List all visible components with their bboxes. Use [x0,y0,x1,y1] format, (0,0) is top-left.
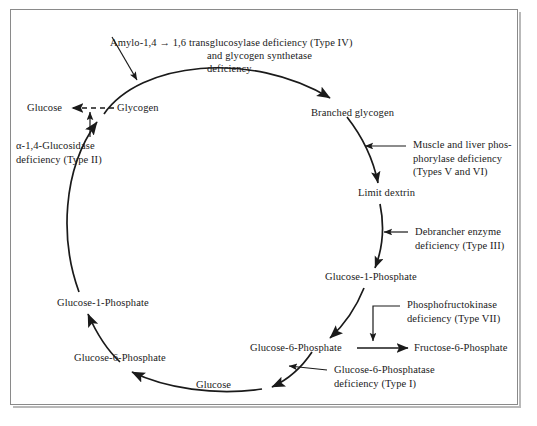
label-glucose-1-phosphate-right: Glucose-1-Phosphate [325,270,417,284]
glycogen-metabolism-figure: Amylo-1,4 → 1,6 transglucosylase deficie… [0,0,537,426]
label-glycogen: Glycogen [117,101,159,115]
label-limit-dextrin: Limit dextrin [358,186,415,200]
label-fructose-6-phosphate: Fructose-6-Phosphate [414,341,508,355]
label-type-vii-deficiency: Phosphofructokinase deficiency (Type VII… [407,298,532,325]
label-type-ii-deficiency: α-1,4-Glucosidase deficiency (Type II) [16,139,156,166]
label-type-iii-deficiency: Debrancher enzyme deficiency (Type III) [415,225,535,252]
label-glucose-6-phosphate-left: Glucose-6-Phosphate [74,351,166,365]
label-type-iv-deficiency-cont: and glycogen synthetase deficiency [207,35,387,76]
label-glucose-1-phosphate-left: Glucose-1-Phosphate [57,296,149,310]
label-type-i-deficiency: Glucose-6-Phosphatase deficiency (Type I… [334,363,464,390]
label-glucose-bottom: Glucose [196,378,231,392]
label-branched-glycogen: Branched glycogen [311,106,394,120]
label-glucose-6-phosphate-right: Glucose-6-Phosphate [250,341,342,355]
type-iv-line2: and glycogen synthetase deficiency [207,50,312,75]
label-glucose-left: Glucose [27,101,62,115]
label-types-v-vi-deficiency: Muscle and liver phos- phorylase deficie… [413,138,529,179]
